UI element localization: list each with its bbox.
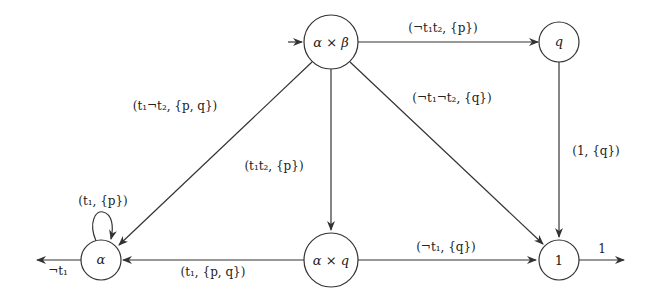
edge-alpha-self <box>93 212 113 241</box>
svg-text:1: 1 <box>555 253 563 268</box>
label-ab-one: (¬t₁¬t₂, {q}) <box>412 91 491 105</box>
label-q-one: (1, {q}) <box>572 144 620 158</box>
label-ab-alpha: (t₁¬t₂, {p, q}) <box>133 99 218 113</box>
svg-text:α × β: α × β <box>313 35 348 50</box>
svg-text:α: α <box>97 252 106 267</box>
label-aq-one: (¬t₁, {q}) <box>416 240 476 254</box>
label-one-out: 1 <box>598 242 606 256</box>
edge-ab-one <box>350 62 543 244</box>
state-one: 1 <box>539 240 579 280</box>
edge-ab-alpha <box>119 62 312 245</box>
label-aq-alpha: (t₁, {p, q}) <box>181 265 246 279</box>
label-ab-aq: (t₁t₂, {p}) <box>244 159 303 173</box>
svg-text:q: q <box>555 34 563 49</box>
state-alpha: α <box>81 240 121 280</box>
state-alpha-times-beta: α × β <box>304 15 358 69</box>
label-alpha-out: ¬t₁ <box>48 264 68 278</box>
automaton-diagram: α × β q α α × q 1 (¬t₁t₂, {p}) (¬t₁¬t₂, … <box>0 0 656 300</box>
label-alpha-self: (t₁, {p}) <box>78 194 128 208</box>
state-q: q <box>539 22 579 62</box>
svg-text:α × q: α × q <box>313 253 349 268</box>
state-alpha-times-q: α × q <box>304 233 358 287</box>
label-ab-q: (¬t₁t₂, {p}) <box>408 21 477 35</box>
